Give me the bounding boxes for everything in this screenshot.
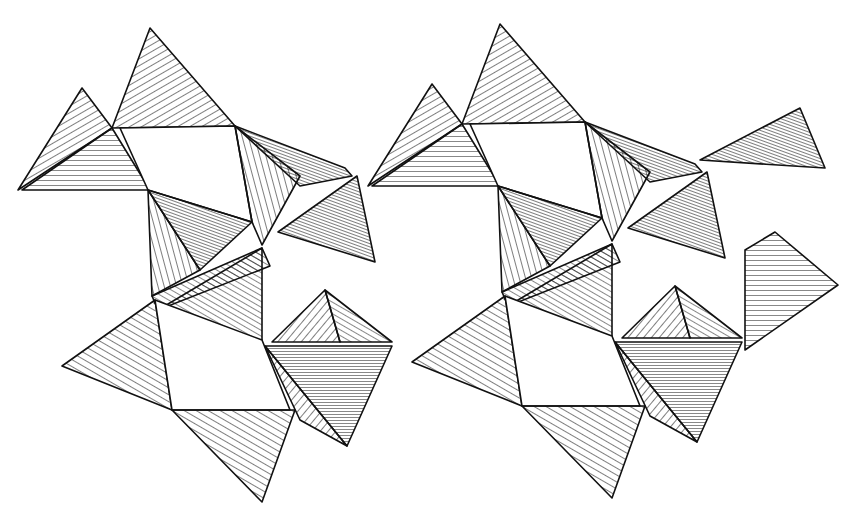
tetra-right-lower: [745, 232, 838, 350]
tetra-right-edge: [700, 108, 825, 168]
crystal-structure-drawing: [0, 0, 861, 518]
